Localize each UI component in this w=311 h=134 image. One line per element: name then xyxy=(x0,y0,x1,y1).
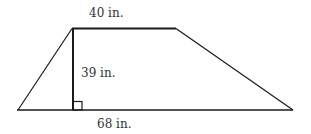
bottom-base-label: 68 in. xyxy=(97,117,131,131)
right-leg xyxy=(176,29,293,111)
height-label: 39 in. xyxy=(81,66,115,80)
top-base-label: 40 in. xyxy=(89,6,123,20)
right-angle-marker xyxy=(73,102,82,111)
left-leg xyxy=(18,29,72,111)
trapezoid-diagram: 40 in. 39 in. 68 in. xyxy=(0,0,311,134)
